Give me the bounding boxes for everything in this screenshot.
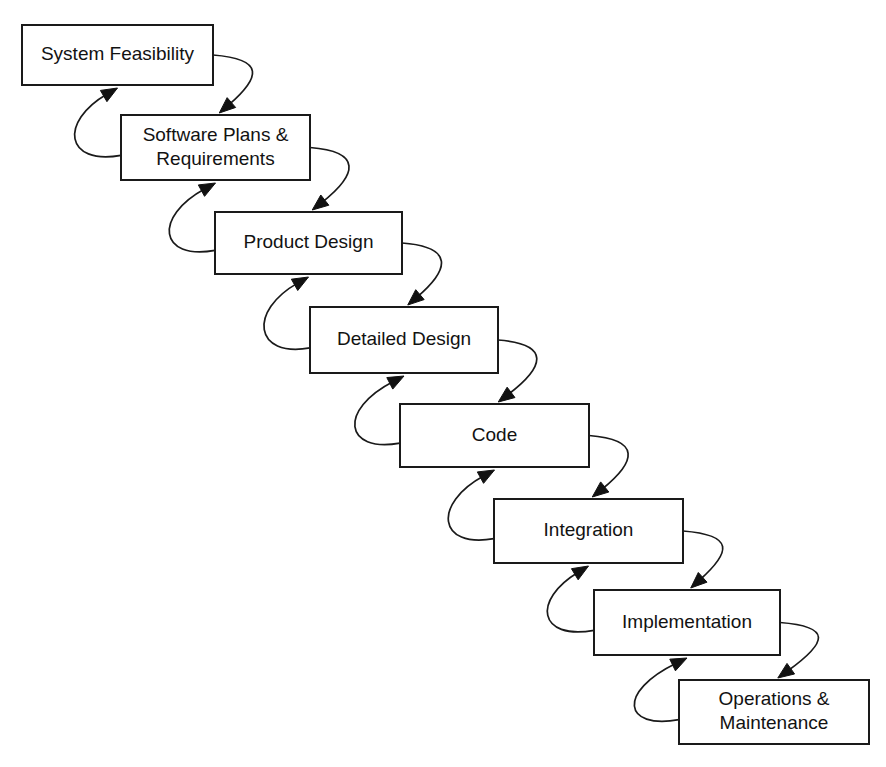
arrowhead-backward-implementation-to-integration [571, 566, 588, 580]
stage-label-line: Software Plans & [143, 124, 289, 145]
flow-curve-backward-product-design-to-software-plans-requirements [169, 189, 215, 252]
flow-curve-forward-system-feasibility-to-software-plans-requirements [213, 55, 253, 105]
stage-label-line: Code [472, 424, 517, 445]
stage-box-software-plans-requirements[interactable]: Software Plans &Requirements [121, 115, 310, 180]
flow-curve-forward-code-to-integration [589, 436, 628, 490]
diagram-canvas: System FeasibilitySoftware Plans &Requir… [0, 0, 886, 767]
stage-label-line: Detailed Design [337, 328, 471, 349]
stage-label-line: Maintenance [720, 712, 829, 733]
arrowhead-backward-product-design-to-software-plans-requirements [198, 183, 215, 196]
arrowhead-forward-detailed-design-to-code [498, 387, 515, 402]
stage-box-product-design[interactable]: Product Design [215, 212, 402, 274]
stage-box-operations-maintenance[interactable]: Operations &Maintenance [679, 680, 869, 744]
flow-curve-forward-software-plans-requirements-to-product-design [310, 148, 349, 203]
flow-curve-backward-implementation-to-integration [547, 572, 594, 632]
arrowhead-backward-detailed-design-to-product-design [291, 277, 308, 291]
arrowhead-backward-integration-to-code [477, 470, 494, 483]
stage-label-line: Requirements [156, 148, 274, 169]
stage-box-detailed-design[interactable]: Detailed Design [310, 307, 498, 373]
waterfall-diagram: System FeasibilitySoftware Plans &Requir… [0, 0, 886, 767]
arrowhead-backward-code-to-detailed-design [387, 376, 404, 389]
stage-label-line: System Feasibility [41, 43, 195, 64]
flow-curve-backward-detailed-design-to-product-design [264, 283, 310, 349]
flow-curve-forward-detailed-design-to-code [498, 340, 537, 395]
stage-label-line: Operations & [719, 688, 830, 709]
stage-label-code: Code [472, 424, 517, 445]
stage-box-code[interactable]: Code [400, 404, 589, 467]
stage-label-integration: Integration [544, 519, 634, 540]
stage-box-system-feasibility[interactable]: System Feasibility [22, 25, 213, 85]
flow-curve-forward-integration-to-implementation [683, 531, 723, 580]
stage-label-implementation: Implementation [622, 611, 752, 632]
stage-box-implementation[interactable]: Implementation [594, 590, 780, 655]
stage-boxes-layer: System FeasibilitySoftware Plans &Requir… [22, 25, 869, 744]
arrowhead-backward-operations-maintenance-to-implementation [670, 658, 687, 671]
stage-label-product-design: Product Design [244, 231, 374, 252]
stage-label-detailed-design: Detailed Design [337, 328, 471, 349]
arrowhead-forward-software-plans-requirements-to-product-design [312, 195, 329, 210]
arrowhead-backward-software-plans-requirements-to-system-feasibility [100, 88, 117, 102]
stage-label-system-feasibility: System Feasibility [41, 43, 195, 64]
flow-curve-backward-software-plans-requirements-to-system-feasibility [75, 94, 121, 157]
flow-curve-forward-implementation-to-operations-maintenance [780, 623, 818, 672]
flow-curve-backward-operations-maintenance-to-implementation [634, 663, 679, 721]
stage-label-line: Integration [544, 519, 634, 540]
arrowhead-forward-code-to-integration [592, 482, 609, 497]
flow-curve-backward-integration-to-code [448, 476, 494, 540]
arrowhead-forward-implementation-to-operations-maintenance [778, 663, 795, 678]
stage-label-line: Implementation [622, 611, 752, 632]
stage-box-integration[interactable]: Integration [494, 499, 683, 563]
stage-label-line: Product Design [244, 231, 374, 252]
flow-curve-backward-code-to-detailed-design [355, 381, 400, 444]
flow-curve-forward-product-design-to-detailed-design [402, 243, 441, 297]
